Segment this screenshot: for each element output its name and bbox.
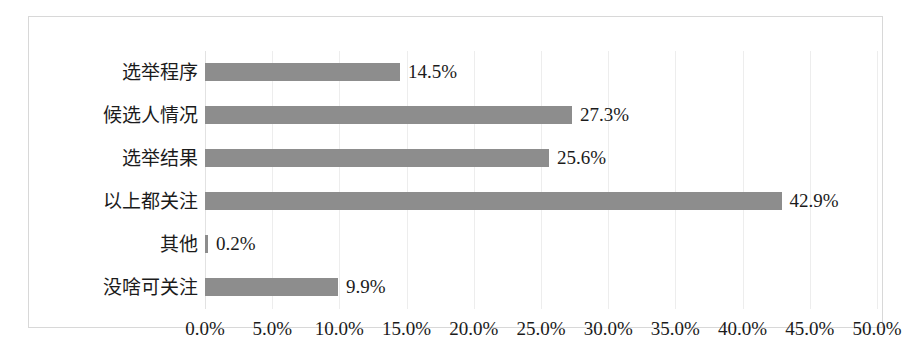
x-tick-label: 45.0% <box>785 318 834 340</box>
bar-value-label: 27.3% <box>572 106 629 124</box>
bar <box>205 149 549 167</box>
bar <box>205 106 572 124</box>
x-tick-label: 5.0% <box>252 318 292 340</box>
bar-row: 没啥可关注9.9% <box>205 266 877 309</box>
bar <box>205 192 782 210</box>
x-tick-label: 20.0% <box>449 318 498 340</box>
x-tick-label: 15.0% <box>382 318 431 340</box>
x-tick-label: 40.0% <box>718 318 767 340</box>
x-tick-label: 0.0% <box>185 318 225 340</box>
bar-value-label: 9.9% <box>338 278 386 296</box>
x-tick-label: 30.0% <box>584 318 633 340</box>
bar <box>205 63 400 81</box>
category-label: 选举结果 <box>122 137 205 180</box>
category-label: 选举程序 <box>122 51 205 94</box>
x-axis: 0.0%5.0%10.0%15.0%20.0%25.0%30.0%35.0%40… <box>205 309 877 349</box>
bar-row: 其他0.2% <box>205 223 877 266</box>
chart-frame: 选举程序14.5%候选人情况27.3%选举结果25.6%以上都关注42.9%其他… <box>28 16 883 328</box>
category-label: 以上都关注 <box>103 180 205 223</box>
bar-row: 选举程序14.5% <box>205 51 877 94</box>
category-label: 没啥可关注 <box>103 266 205 309</box>
bar-rows: 选举程序14.5%候选人情况27.3%选举结果25.6%以上都关注42.9%其他… <box>205 51 877 309</box>
x-tick-label: 25.0% <box>516 318 565 340</box>
chart-screenshot: 选举程序14.5%候选人情况27.3%选举结果25.6%以上都关注42.9%其他… <box>0 0 913 349</box>
bar-value-label: 0.2% <box>208 235 256 253</box>
bar-row: 以上都关注42.9% <box>205 180 877 223</box>
category-label: 候选人情况 <box>103 94 205 137</box>
bar-row: 候选人情况27.3% <box>205 94 877 137</box>
bar <box>205 278 338 296</box>
bar-value-label: 14.5% <box>400 63 457 81</box>
category-label: 其他 <box>160 223 205 266</box>
x-tick-label: 10.0% <box>315 318 364 340</box>
gridline-50.0% <box>877 51 878 309</box>
x-tick-label: 35.0% <box>651 318 700 340</box>
bar-value-label: 42.9% <box>782 192 839 210</box>
bar-row: 选举结果25.6% <box>205 137 877 180</box>
x-tick-label: 50.0% <box>852 318 901 340</box>
plot-area: 选举程序14.5%候选人情况27.3%选举结果25.6%以上都关注42.9%其他… <box>205 51 877 309</box>
bar-value-label: 25.6% <box>549 149 606 167</box>
